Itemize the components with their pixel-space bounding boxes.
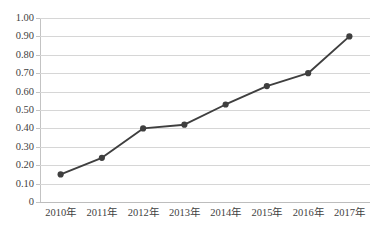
data-point-marker: [181, 122, 187, 128]
data-point-marker: [223, 101, 229, 107]
data-point-marker: [58, 171, 64, 177]
x-axis-label: 2017年: [334, 208, 365, 219]
data-series-layer: [0, 0, 375, 236]
series-line: [61, 36, 350, 174]
line-chart: 00.100.200.300.400.500.600.700.800.901.0…: [0, 0, 375, 236]
data-point-marker: [305, 70, 311, 76]
data-point-marker: [99, 155, 105, 161]
data-point-marker: [346, 33, 352, 39]
data-point-marker: [264, 83, 270, 89]
x-axis-label: 2013年: [169, 208, 200, 219]
x-axis-label: 2016年: [293, 208, 324, 219]
x-axis-label: 2010年: [45, 208, 76, 219]
x-axis-label: 2012年: [128, 208, 159, 219]
data-point-marker: [140, 125, 146, 131]
x-axis-label: 2015年: [251, 208, 282, 219]
x-axis-label: 2011年: [87, 208, 118, 219]
x-axis-label: 2014年: [210, 208, 241, 219]
